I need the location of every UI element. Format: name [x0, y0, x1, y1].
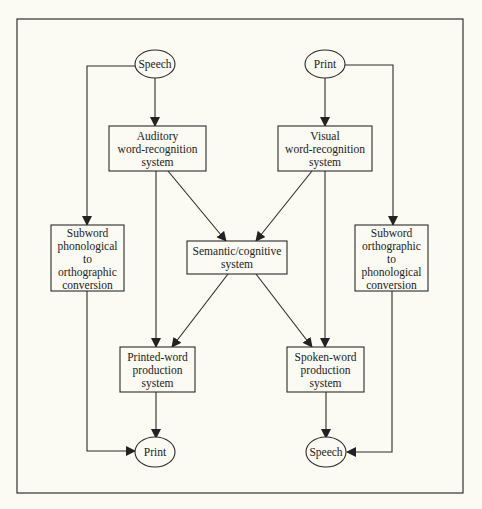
label-subword-left-2: phonological	[57, 240, 117, 253]
label-print-input: Print	[314, 58, 337, 70]
label-subword-right-3: to	[387, 253, 396, 265]
label-subword-right-2: orthographic	[362, 240, 421, 253]
label-printed-word-2: production	[133, 364, 183, 377]
label-auditory-2: word-recognition	[118, 143, 198, 156]
label-printed-word-3: system	[142, 377, 174, 390]
label-semantic-2: system	[221, 258, 253, 271]
label-subword-left-5: conversion	[62, 279, 113, 291]
label-visual-2: word-recognition	[285, 143, 365, 156]
label-printed-word-1: Printed-word	[127, 351, 188, 363]
label-subword-right-5: conversion	[366, 279, 417, 291]
label-visual-3: system	[309, 156, 341, 169]
label-subword-left-4: orthographic	[58, 266, 117, 279]
label-print-output: Print	[144, 446, 167, 458]
label-spoken-word-2: production	[301, 364, 351, 377]
label-subword-left-1: Subword	[67, 227, 109, 239]
label-speech-input: Speech	[138, 58, 171, 71]
label-subword-left-3: to	[83, 253, 92, 265]
label-auditory-1: Auditory	[137, 130, 179, 143]
label-visual-1: Visual	[310, 130, 339, 142]
edge-semantic-printed	[172, 274, 228, 347]
label-auditory-3: system	[142, 156, 174, 169]
label-spoken-word-3: system	[310, 377, 342, 390]
label-spoken-word-1: Spoken-word	[295, 351, 357, 364]
label-subword-right-1: Subword	[371, 227, 413, 239]
label-subword-right-4: phonological	[361, 266, 421, 279]
label-semantic-1: Semantic/cognitive	[193, 245, 282, 258]
edge-visual-semantic	[256, 171, 312, 241]
edge-auditory-semantic	[168, 171, 226, 241]
label-speech-output: Speech	[309, 446, 342, 459]
edge-semantic-spoken	[256, 274, 312, 347]
diagram-canvas: Speech Print Auditory word-recognition s…	[0, 0, 482, 509]
